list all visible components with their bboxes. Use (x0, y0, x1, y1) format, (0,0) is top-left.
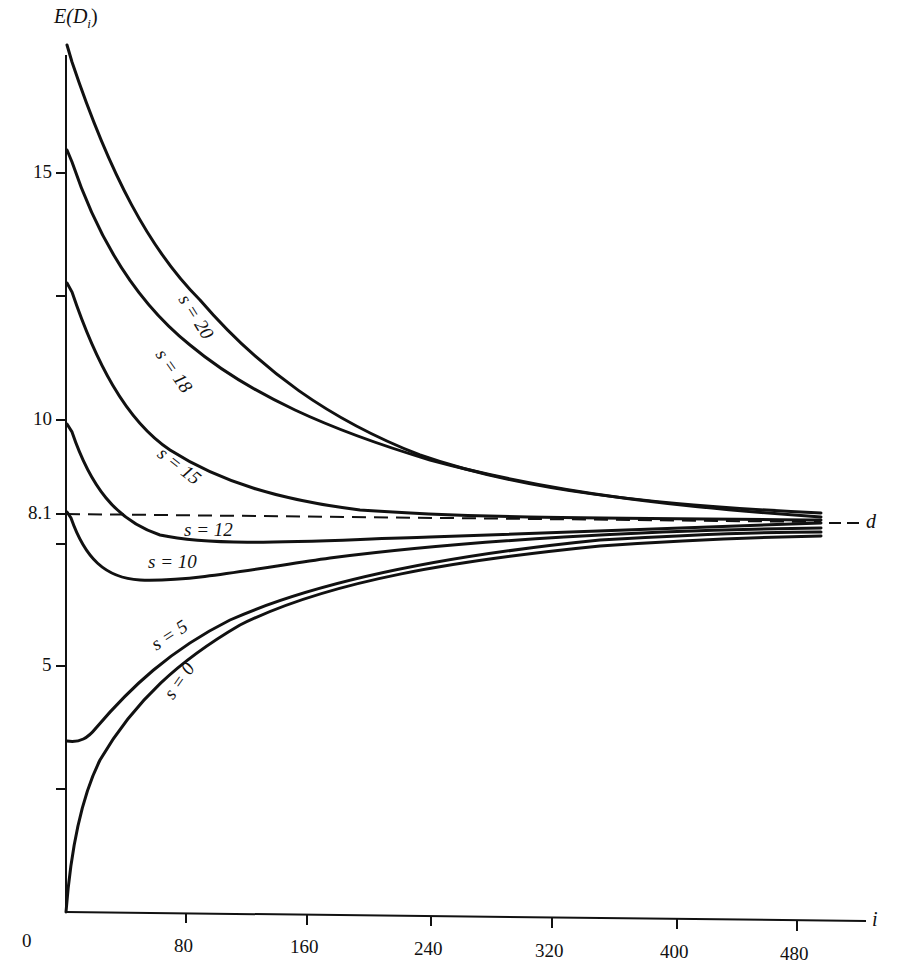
x-label-320: 320 (535, 940, 564, 962)
curve-s-12 (67, 424, 821, 542)
y-axis-title: E(Di) (54, 5, 98, 32)
x-axis-title: i (872, 908, 878, 931)
y-label-15: 15 (33, 161, 52, 183)
curve-label-s-12: s = 12 (184, 519, 233, 541)
y-label-5: 5 (42, 654, 52, 676)
x-label-400: 400 (660, 941, 689, 963)
chart-canvas (0, 0, 909, 978)
x-label-480: 480 (780, 943, 809, 965)
reference-label-d: d (866, 510, 876, 533)
curve-s-20 (67, 45, 821, 513)
x-label-160: 160 (290, 936, 319, 958)
origin-label: 0 (22, 930, 32, 952)
curve-s-0 (66, 536, 821, 912)
curve-label-s-10: s = 10 (148, 551, 197, 573)
y-ticks (56, 173, 66, 789)
curve-s-15 (67, 283, 821, 520)
x-label-80: 80 (174, 935, 193, 957)
x-label-240: 240 (414, 938, 443, 960)
y-label-10: 10 (33, 408, 52, 430)
y-label-8-1: 8.1 (28, 502, 52, 524)
x-ticks (186, 913, 797, 931)
